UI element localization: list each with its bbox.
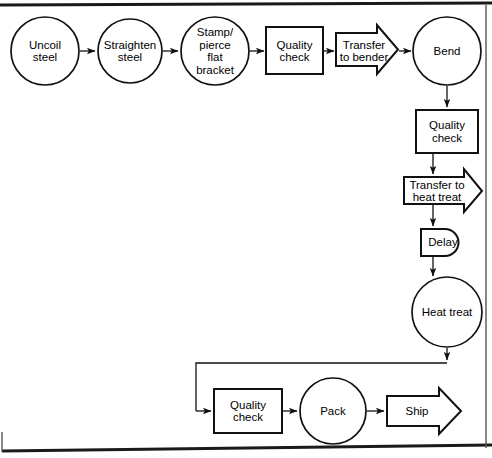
flowchart-graphics (0, 0, 492, 458)
node-quality-check-2[interactable] (416, 110, 478, 153)
node-straighten-steel[interactable] (98, 19, 162, 83)
node-pack[interactable] (300, 378, 366, 444)
node-heat-treat[interactable] (412, 277, 482, 347)
bottom-rule (2, 445, 492, 451)
node-quality-check-1[interactable] (266, 27, 323, 74)
node-transfer-to-heat-treat[interactable] (404, 169, 482, 212)
node-bend[interactable] (413, 17, 481, 85)
node-ship[interactable] (387, 388, 461, 434)
top-rule (0, 3, 492, 5)
node-stamp-pierce-flat-bracket[interactable] (181, 17, 249, 85)
node-quality-check-3[interactable] (214, 389, 282, 433)
node-delay[interactable] (421, 229, 459, 256)
flowchart-canvas: Uncoil steel Straighten steel Stamp/ pie… (0, 0, 492, 458)
node-transfer-to-bender[interactable] (336, 25, 398, 74)
node-uncoil-steel[interactable] (11, 17, 79, 85)
